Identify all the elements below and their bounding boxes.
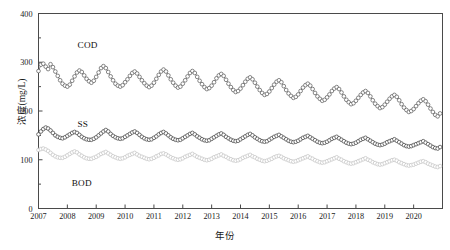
data-series-group	[37, 62, 442, 169]
data-point-marker	[308, 84, 312, 88]
data-point-marker	[167, 74, 171, 78]
data-point-marker	[109, 75, 113, 79]
plot-border	[39, 14, 443, 209]
data-point-marker	[186, 75, 190, 79]
data-point-marker	[97, 71, 101, 75]
data-point-marker	[366, 91, 370, 95]
data-point-marker	[53, 70, 57, 74]
series-label-ss: SS	[77, 119, 88, 129]
data-point-marker	[135, 72, 139, 76]
data-point-marker	[255, 85, 259, 89]
y-axis-ticks	[39, 14, 43, 209]
x-axis-ticks	[39, 205, 414, 209]
data-point-marker	[37, 69, 41, 73]
series-label-bod: BOD	[72, 178, 92, 188]
series-cod	[37, 62, 442, 118]
data-point-marker	[157, 73, 161, 77]
y-axis-title: 浓度(mg/L)	[14, 59, 28, 145]
data-point-marker	[56, 74, 60, 78]
series-label-cod: COD	[77, 40, 97, 50]
data-point-marker	[438, 164, 442, 168]
data-point-marker	[104, 66, 108, 70]
data-point-marker	[58, 78, 62, 82]
data-point-marker	[92, 79, 96, 83]
data-point-marker	[328, 93, 332, 97]
data-point-marker	[198, 79, 202, 83]
data-point-marker	[193, 71, 197, 75]
data-point-marker	[282, 84, 286, 88]
data-point-marker	[169, 77, 173, 81]
data-point-marker	[138, 75, 142, 79]
x-tick-label: 2012	[175, 212, 191, 221]
data-point-marker	[68, 83, 72, 87]
data-point-marker	[424, 99, 428, 103]
data-point-marker	[51, 65, 55, 69]
data-point-marker	[311, 87, 315, 91]
x-tick-label: 2013	[203, 212, 219, 221]
data-point-marker	[94, 75, 98, 79]
data-point-marker	[181, 82, 185, 86]
data-point-marker	[397, 98, 401, 102]
data-point-marker	[154, 77, 158, 81]
data-point-marker	[126, 77, 130, 81]
data-point-marker	[70, 79, 74, 83]
data-point-marker	[438, 112, 442, 116]
data-point-marker	[299, 89, 303, 93]
data-point-marker	[342, 95, 346, 99]
data-point-marker	[73, 75, 77, 79]
data-point-marker	[371, 98, 375, 102]
data-point-marker	[268, 90, 272, 94]
data-point-marker	[241, 83, 245, 87]
data-point-marker	[82, 74, 86, 78]
x-axis-title: 年份	[0, 228, 450, 242]
x-tick-label: 2016	[290, 212, 306, 221]
data-point-marker	[337, 87, 341, 91]
data-point-marker	[183, 78, 187, 82]
data-point-marker	[222, 74, 226, 78]
y-tick-label: 100	[0, 155, 33, 164]
series-ss	[37, 126, 442, 151]
y-tick-label: 0	[0, 204, 33, 213]
chart-container: 0100200300400 20072008200920102011201220…	[0, 0, 450, 250]
x-tick-label: 2009	[88, 212, 104, 221]
data-point-marker	[438, 145, 442, 149]
data-point-marker	[270, 86, 274, 90]
x-tick-label: 2008	[59, 212, 75, 221]
y-tick-label: 400	[0, 9, 33, 18]
data-point-marker	[426, 103, 430, 107]
data-point-marker	[227, 82, 231, 86]
x-tick-label: 2007	[30, 212, 46, 221]
data-point-marker	[400, 102, 404, 106]
data-point-marker	[195, 75, 199, 79]
data-point-marker	[284, 88, 288, 92]
data-point-marker	[313, 91, 317, 95]
x-tick-label: 2017	[319, 212, 335, 221]
data-point-marker	[251, 77, 255, 81]
data-point-marker	[340, 91, 344, 95]
x-tick-label: 2010	[117, 212, 133, 221]
x-tick-label: 2011	[146, 212, 162, 221]
plot-frame	[39, 14, 443, 209]
x-tick-label: 2015	[261, 212, 277, 221]
x-tick-label: 2018	[348, 212, 364, 221]
data-point-marker	[296, 93, 300, 97]
data-point-marker	[212, 80, 216, 84]
data-point-marker	[111, 78, 115, 82]
data-point-marker	[239, 87, 243, 91]
data-point-marker	[152, 81, 156, 85]
data-point-marker	[80, 70, 84, 74]
data-point-marker	[395, 95, 399, 99]
x-tick-label: 2019	[377, 212, 393, 221]
series-bod	[37, 147, 442, 169]
x-tick-label: 2014	[232, 212, 248, 221]
data-point-marker	[46, 67, 50, 71]
data-point-marker	[210, 84, 214, 88]
data-point-marker	[253, 81, 257, 85]
data-point-marker	[280, 80, 284, 84]
data-point-marker	[368, 95, 372, 99]
x-tick-label: 2020	[405, 212, 421, 221]
data-point-marker	[164, 70, 168, 74]
data-point-marker	[106, 70, 110, 74]
data-point-marker	[224, 78, 228, 82]
data-point-marker	[429, 107, 433, 111]
